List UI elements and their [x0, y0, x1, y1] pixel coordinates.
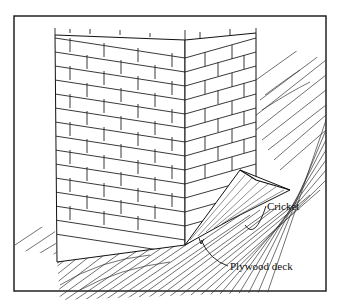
chimney-left-face [55, 35, 185, 262]
plywood-deck-label: Plywood deck [230, 261, 293, 272]
cricket-label: Cricket [267, 201, 299, 212]
